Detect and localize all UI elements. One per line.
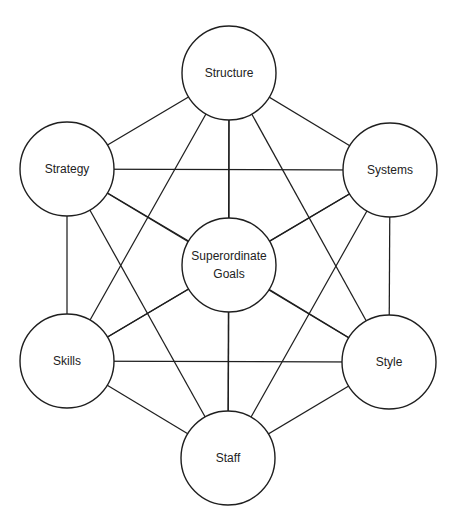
node-circle (182, 218, 276, 312)
framework-nodes: StructureStrategySystemsSuperordinateGoa… (20, 26, 437, 505)
node-label: Systems (367, 163, 413, 177)
node-label: Strategy (45, 162, 90, 176)
edge-skills-style (67, 361, 389, 362)
node-label: Structure (205, 66, 254, 80)
node-style: Style (342, 315, 436, 409)
node-skills: Skills (20, 314, 114, 408)
node-label: Style (376, 355, 403, 369)
node-label: Skills (53, 354, 81, 368)
edge-strategy-systems (67, 169, 390, 170)
node-superordinate-goals: SuperordinateGoals (182, 218, 276, 312)
node-structure: Structure (182, 26, 276, 120)
seven-s-network-diagram: StructureStrategySystemsSuperordinateGoa… (0, 0, 456, 526)
node-label: Superordinate (191, 249, 267, 263)
node-systems: Systems (343, 123, 437, 217)
node-label: Staff (216, 451, 241, 465)
node-strategy: Strategy (20, 122, 114, 216)
node-label: Goals (213, 267, 244, 281)
node-staff: Staff (181, 411, 275, 505)
